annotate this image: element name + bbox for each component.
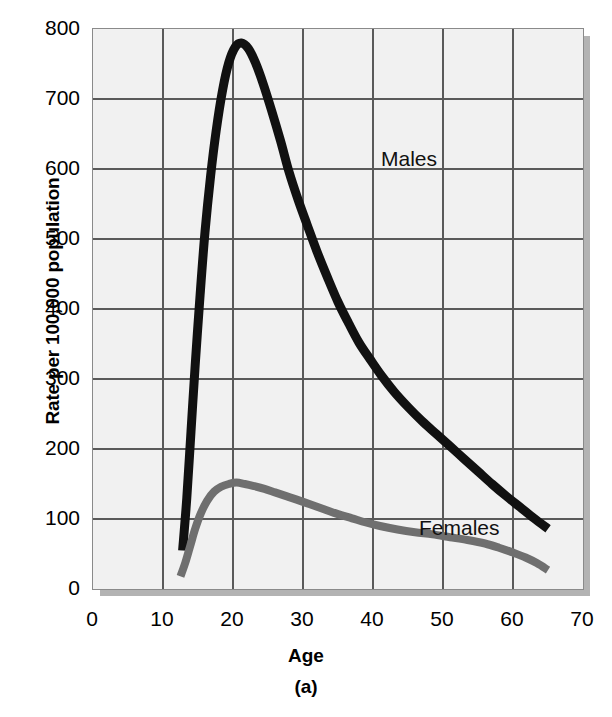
figure-container: Rate per 100,000 population 010020030040… [0,0,612,717]
x-tick-label: 70 [557,608,607,629]
x-tick-label: 40 [347,608,397,629]
x-tick-label: 50 [417,608,467,629]
x-tick-label: 30 [277,608,327,629]
x-tick-label: 20 [207,608,257,629]
x-tick-label: 60 [487,608,537,629]
x-tick-label: 0 [67,608,117,629]
figure-caption: (a) [0,676,612,698]
x-tick-label: 10 [137,608,187,629]
x-axis-tick-labels: 010203040506070 [0,0,612,717]
x-axis-title: Age [0,645,612,667]
